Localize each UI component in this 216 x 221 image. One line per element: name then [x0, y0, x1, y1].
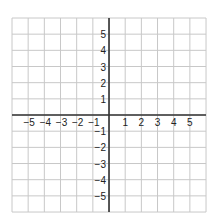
x-tick-label: −2	[72, 117, 84, 128]
x-tick-label: −3	[56, 117, 68, 128]
coordinate-plane: −5−4−3−2−112345 54321−1−2−3−4−5	[0, 0, 216, 221]
y-tick-label: −1	[95, 126, 107, 137]
x-tick-label: −5	[23, 117, 35, 128]
x-tick-label: 2	[139, 117, 145, 128]
axes	[12, 18, 206, 212]
x-tick-label: 3	[155, 117, 161, 128]
x-tick-label: 4	[171, 117, 177, 128]
y-tick-label: 4	[100, 45, 106, 56]
x-tick-label: 1	[122, 117, 128, 128]
y-tick-label: 3	[100, 62, 106, 73]
y-tick-label: −3	[95, 159, 107, 170]
y-tick-label: 2	[100, 78, 106, 89]
y-tick-label: −4	[95, 175, 107, 186]
y-tick-label: −5	[95, 191, 107, 202]
y-tick-label: 5	[100, 29, 106, 40]
y-tick-label: −2	[95, 142, 107, 153]
x-tick-label: −4	[40, 117, 52, 128]
x-tick-label: 5	[187, 117, 193, 128]
y-tick-label: 1	[100, 94, 106, 105]
